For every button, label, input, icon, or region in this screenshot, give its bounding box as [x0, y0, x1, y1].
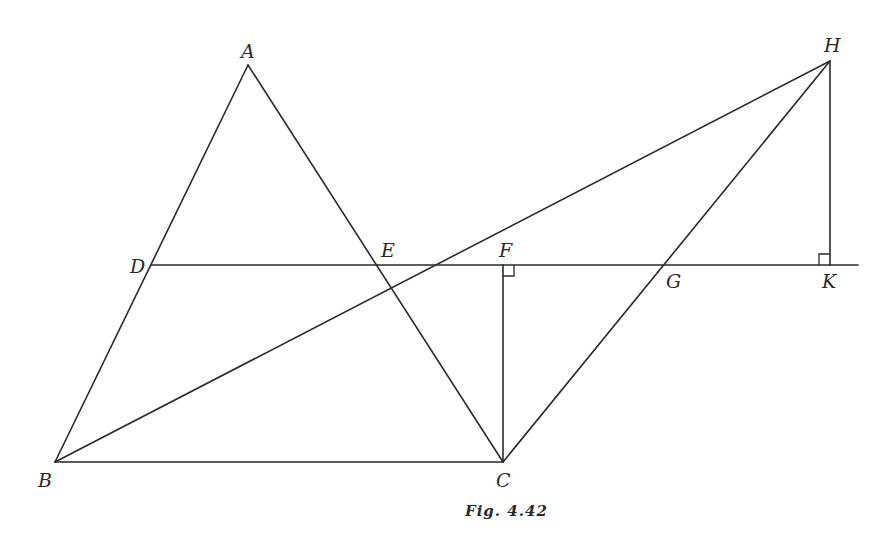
label-g: G	[666, 270, 681, 292]
segment-ch	[503, 61, 830, 462]
figure-caption: Fig. 4.42	[464, 502, 548, 520]
segment-bh	[55, 61, 830, 462]
label-h: H	[823, 34, 841, 56]
right-angle-marker-k	[819, 254, 830, 265]
label-b: B	[37, 469, 52, 491]
label-d: D	[129, 255, 145, 277]
label-e: E	[380, 239, 395, 261]
segment-ac	[248, 65, 503, 462]
label-c: C	[496, 469, 511, 491]
label-f: F	[498, 239, 513, 261]
label-a: A	[239, 40, 255, 62]
right-angle-marker-f	[503, 265, 514, 276]
segment-ab	[55, 65, 248, 462]
geometry-figure: A H D E F G K B C Fig. 4.42	[0, 0, 883, 550]
label-k: K	[821, 270, 838, 292]
